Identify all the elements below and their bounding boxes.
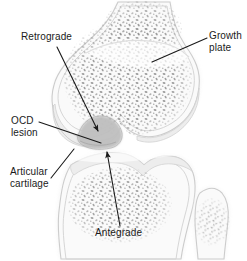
tibia-group (57, 152, 198, 259)
femur-group (52, 0, 200, 149)
label-antegrade-line1: Antegrade (95, 227, 142, 239)
label-growth-plate-line2: plate (209, 42, 242, 54)
label-antegrade: Antegrade (95, 227, 142, 239)
label-ocd-lesion-line1: OCD (11, 115, 38, 127)
fibula-trabeculae (193, 188, 233, 248)
label-ocd-lesion: OCD lesion (11, 115, 38, 138)
femur-condyle-trabeculae (58, 20, 200, 138)
label-retrograde: Retrograde (21, 31, 72, 43)
label-articular-cartilage-line2: cartilage (10, 178, 49, 190)
ocd-knee-figure: Retrograde Growth plate OCD lesion Artic… (0, 0, 247, 261)
label-articular-cartilage-line1: Articular (10, 166, 49, 178)
label-growth-plate-line1: Growth (209, 30, 242, 42)
label-growth-plate: Growth plate (209, 30, 242, 53)
label-ocd-lesion-line2: lesion (11, 127, 38, 139)
tibia-trabeculae (58, 158, 198, 258)
label-retrograde-line1: Retrograde (21, 31, 72, 43)
label-articular-cartilage: Articular cartilage (10, 166, 49, 189)
